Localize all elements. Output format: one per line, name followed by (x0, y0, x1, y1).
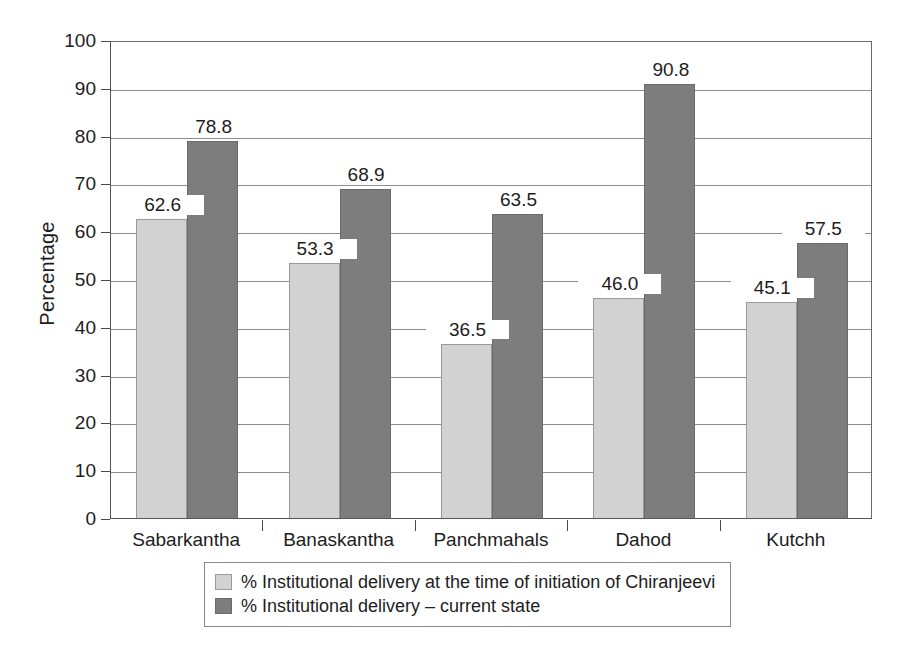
y-tick-mark (101, 41, 110, 42)
bar-value-label: 78.8 (172, 117, 255, 137)
y-tick-label: 60 (30, 222, 96, 241)
y-tick-label: 100 (30, 31, 96, 50)
y-tick-label: 40 (30, 318, 96, 337)
y-tick-label: 0 (30, 509, 96, 528)
y-tick-mark (101, 137, 110, 138)
legend-item: % Institutional delivery – current state (215, 594, 720, 618)
y-tick-mark (101, 232, 110, 233)
y-tick-mark (101, 89, 110, 90)
bar (746, 302, 797, 518)
light-gray-swatch (215, 574, 232, 590)
legend-item-label: % Institutional delivery – current state (241, 596, 540, 617)
x-tick-label: Kutchh (720, 529, 872, 551)
y-tick-mark (101, 423, 110, 424)
y-tick-mark (101, 519, 110, 520)
gridline (111, 138, 871, 139)
bar (644, 84, 695, 518)
y-tick-label: 70 (30, 174, 96, 193)
bar-value-label: 62.6 (121, 195, 204, 215)
bar (441, 344, 492, 518)
bar (289, 263, 340, 518)
x-tick-label: Sabarkantha (110, 529, 262, 551)
x-tick-label: Banaskantha (262, 529, 414, 551)
y-tick-label: 10 (30, 461, 96, 480)
legend-item: % Institutional delivery at the time of … (215, 570, 720, 594)
bar-value-label: 45.1 (731, 278, 814, 298)
y-tick-label: 90 (30, 79, 96, 98)
y-tick-label: 50 (30, 270, 96, 289)
bar-value-label: 46.0 (578, 274, 661, 294)
x-tick-label: Panchmahals (415, 529, 567, 551)
bar-value-label: 90.8 (629, 60, 712, 80)
y-tick-mark (101, 376, 110, 377)
y-tick-label: 20 (30, 413, 96, 432)
bar (340, 189, 391, 518)
y-tick-mark (101, 471, 110, 472)
y-tick-label: 30 (30, 366, 96, 385)
y-tick-label: 80 (30, 127, 96, 146)
bar (492, 214, 543, 518)
dark-gray-swatch (215, 598, 232, 614)
bar-chart: Percentage 0102030405060708090100 Sabark… (0, 0, 901, 654)
bar (593, 298, 644, 518)
bar-value-label: 63.5 (477, 190, 560, 210)
bar-value-label: 68.9 (325, 165, 408, 185)
chart-legend: % Institutional delivery at the time of … (204, 562, 731, 627)
bar (136, 219, 187, 518)
legend-item-label: % Institutional delivery at the time of … (241, 572, 715, 593)
y-tick-mark (101, 280, 110, 281)
x-tick-label: Dahod (567, 529, 719, 551)
bar-value-label: 53.3 (274, 239, 357, 259)
y-tick-mark (101, 184, 110, 185)
y-tick-mark (101, 328, 110, 329)
bar-value-label: 57.5 (782, 219, 865, 239)
bar-value-label: 36.5 (426, 320, 509, 340)
gridline (111, 90, 871, 91)
